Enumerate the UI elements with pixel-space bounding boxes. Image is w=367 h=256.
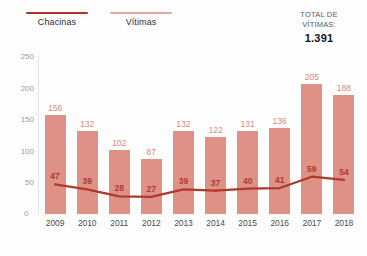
x-axis-label-2014: 2014 — [199, 218, 231, 228]
bar-slot: 122 — [199, 56, 231, 214]
y-axis-ticks: 25020015010050 — [8, 56, 34, 214]
bar-value-label: 205 — [305, 72, 319, 82]
bar-2018 — [333, 95, 354, 214]
x-axis-label-2015: 2015 — [232, 218, 264, 228]
x-axis-labels: 2009201020112012201320142015201620172018 — [39, 218, 360, 228]
legend-label-vitimas: Vítimas — [126, 17, 157, 28]
bar-slot: 132 — [71, 56, 103, 214]
bar-2013 — [173, 131, 194, 214]
bar-slot: 136 — [264, 56, 296, 214]
bar-value-label: 87 — [147, 147, 156, 157]
total-vitimas-callout: TOTAL DE VÍTIMAS: 1.391 — [283, 10, 355, 44]
bar-series-vitimas: 15613210287132122131136205188 — [39, 56, 360, 214]
y-axis-tick-200: 200 — [21, 83, 34, 92]
y-axis-tick-50: 50 — [25, 178, 34, 187]
bar-value-label: 156 — [48, 103, 62, 113]
x-axis-label-2017: 2017 — [296, 218, 328, 228]
x-axis-label-2016: 2016 — [264, 218, 296, 228]
bar-2011 — [109, 150, 130, 214]
bar-slot: 156 — [39, 56, 71, 214]
legend-item-chacinas: Chacinas — [26, 12, 88, 28]
bar-value-label: 102 — [112, 138, 126, 148]
x-axis-label-2009: 2009 — [39, 218, 71, 228]
bar-2012 — [141, 159, 162, 214]
total-label-line2: VÍTIMAS: — [283, 20, 355, 30]
bar-value-label: 188 — [337, 83, 351, 93]
bar-2014 — [205, 137, 226, 214]
bar-2010 — [77, 131, 98, 214]
y-axis-tick-150: 150 — [21, 115, 34, 124]
x-axis-label-2012: 2012 — [135, 218, 167, 228]
legend-swatch-chacinas — [26, 12, 88, 14]
bar-slot: 102 — [103, 56, 135, 214]
bar-value-label: 131 — [241, 119, 255, 129]
y-axis-tick-100: 100 — [21, 146, 34, 155]
bar-slot: 131 — [232, 56, 264, 214]
bar-value-label: 122 — [208, 125, 222, 135]
y-axis-tick-zero: 0 — [24, 209, 28, 218]
bar-slot: 132 — [167, 56, 199, 214]
x-axis-label-2018: 2018 — [328, 218, 360, 228]
total-label-line1: TOTAL DE — [283, 10, 355, 20]
x-axis-label-2013: 2013 — [167, 218, 199, 228]
bar-value-label: 132 — [176, 119, 190, 129]
legend-swatch-vitimas — [110, 12, 172, 14]
x-axis-label-2010: 2010 — [71, 218, 103, 228]
y-axis-tick-250: 250 — [21, 52, 34, 61]
legend-label-chacinas: Chacinas — [38, 17, 76, 28]
chart-container: Chacinas Vítimas TOTAL DE VÍTIMAS: 1.391… — [0, 0, 367, 256]
bar-slot: 87 — [135, 56, 167, 214]
bar-2016 — [269, 128, 290, 214]
bar-value-label: 136 — [273, 116, 287, 126]
plot-area: 15613210287132122131136205188 4739282739… — [38, 56, 360, 214]
bar-2017 — [301, 84, 322, 214]
bar-slot: 188 — [328, 56, 360, 214]
bar-2015 — [237, 131, 258, 214]
bar-slot: 205 — [296, 56, 328, 214]
total-value: 1.391 — [283, 32, 355, 44]
bar-value-label: 132 — [80, 119, 94, 129]
bar-2009 — [45, 115, 66, 214]
legend-item-vitimas: Vítimas — [110, 12, 172, 28]
chart-legend: Chacinas Vítimas — [26, 12, 172, 28]
x-axis-label-2011: 2011 — [103, 218, 135, 228]
